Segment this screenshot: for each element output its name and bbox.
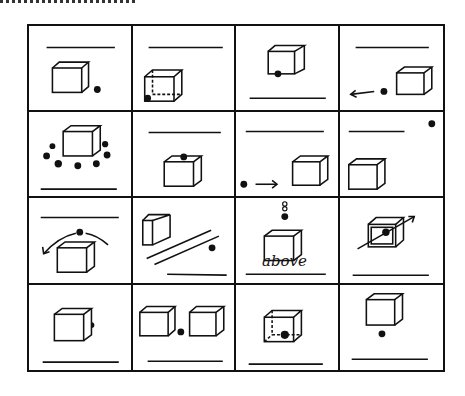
dot (91, 322, 94, 328)
cell-r3c4 (340, 198, 444, 285)
cell-r4c1 (29, 285, 133, 370)
cell-r3c1 (29, 198, 133, 285)
cell-r4c2 (133, 285, 237, 370)
dot-behind-cube-drawing (29, 285, 131, 370)
cell-r2c4 (340, 112, 444, 198)
dot-in-cube-drawing (236, 285, 338, 370)
dot (378, 330, 385, 337)
cell-r4c3 (236, 285, 340, 370)
dots-around-cube-drawing (29, 112, 131, 196)
hang-link-2 (283, 207, 287, 211)
cube-beside-dot-drawing (29, 26, 131, 110)
dot-moving-toward-drawing (236, 112, 338, 196)
dot (208, 244, 215, 251)
cell-r3c2 (133, 198, 237, 285)
hang-link-1 (283, 202, 287, 206)
dot-on-cube-drawing (133, 112, 235, 196)
answer-text: above (262, 252, 307, 270)
dot (380, 88, 387, 95)
cell-r4c4 (340, 285, 444, 370)
dot (275, 70, 282, 77)
cell-r1c2 (133, 26, 237, 112)
dot-moving-over-cube-drawing (29, 198, 131, 283)
cell-r1c4 (340, 26, 444, 112)
dot (382, 228, 389, 235)
dot (281, 331, 289, 339)
cell-r1c3 (236, 26, 340, 112)
dot-far-from-cube-drawing (340, 112, 444, 196)
dot (177, 328, 184, 335)
dot-moving-away-drawing (340, 26, 444, 110)
dot (281, 213, 288, 220)
answer-line (167, 274, 227, 275)
arc-right (86, 233, 108, 245)
dot-across-lines-drawing (133, 198, 235, 283)
preposition-grid: above (27, 24, 445, 372)
dot-under-cube-edge-drawing (236, 26, 338, 110)
dot-inside-cube-drawing (133, 26, 235, 110)
cell-r3c3: above (236, 198, 340, 285)
arc-left-arrow (44, 233, 76, 253)
scan-artifact-dotted-line (0, 0, 135, 3)
dot (94, 86, 101, 93)
dot-between-cubes-drawing (133, 285, 235, 370)
cell-r1c1 (29, 26, 133, 112)
dot (76, 229, 83, 236)
dot-below-cube-drawing (340, 285, 444, 370)
cell-r2c1 (29, 112, 133, 198)
dot-through-cube-drawing (340, 198, 444, 283)
dot (180, 154, 187, 161)
dot-above-cube-drawing (236, 198, 338, 283)
cell-r2c3 (236, 112, 340, 198)
cell-r2c2 (133, 112, 237, 198)
dot (240, 181, 247, 188)
dot (144, 95, 151, 102)
dot (428, 120, 435, 127)
